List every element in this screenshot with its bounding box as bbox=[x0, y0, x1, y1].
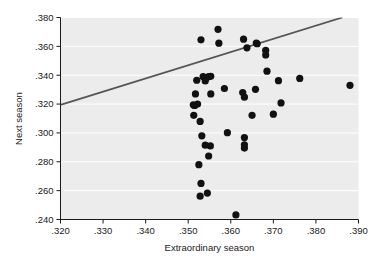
x-axis-title: Extraordinary season bbox=[165, 242, 255, 253]
x-tick-label: .380 bbox=[307, 225, 326, 236]
scatter-plot-figure: .240.260.280.300.320.340.360.380.320.330… bbox=[0, 0, 390, 264]
y-tick-label: .260 bbox=[35, 185, 54, 196]
y-axis-title: Next season bbox=[13, 92, 24, 145]
x-tick-label: .330 bbox=[94, 225, 113, 236]
chart-canvas: .240.260.280.300.320.340.360.380.320.330… bbox=[0, 0, 390, 264]
plot-background bbox=[61, 18, 359, 220]
x-tick-label: .350 bbox=[179, 225, 198, 236]
y-tick-label: .240 bbox=[35, 214, 54, 225]
x-tick-label: .370 bbox=[264, 225, 283, 236]
x-tick-label: .320 bbox=[51, 225, 70, 236]
y-tick-label: .320 bbox=[35, 98, 54, 109]
y-tick-label: .300 bbox=[35, 127, 54, 138]
y-tick-label: .380 bbox=[35, 12, 54, 23]
y-tick-label: .280 bbox=[35, 156, 54, 167]
x-tick-label: .390 bbox=[349, 225, 368, 236]
x-tick-label: .340 bbox=[136, 225, 155, 236]
y-tick-label: .340 bbox=[35, 70, 54, 81]
y-tick-label: .360 bbox=[35, 41, 54, 52]
x-tick-label: .360 bbox=[222, 225, 241, 236]
